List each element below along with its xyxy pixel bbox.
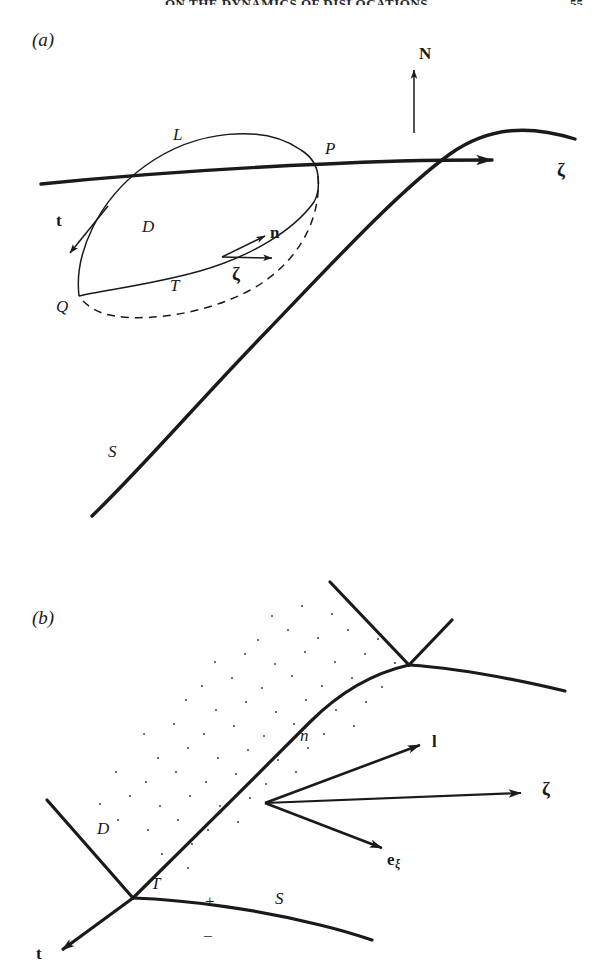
normal-vector-n-arrow-b bbox=[265, 745, 420, 803]
surface-S-curve bbox=[92, 130, 575, 516]
zeta-vector-label-b: ζ bbox=[542, 779, 550, 798]
panel-a-artwork bbox=[41, 70, 575, 516]
e-xi-vector-label: eξ bbox=[387, 851, 400, 871]
e-xi-subscript: ξ bbox=[395, 858, 401, 871]
curve-T-label-b: T bbox=[151, 875, 160, 892]
line-l-curve bbox=[133, 665, 409, 898]
line-l-label: n bbox=[300, 727, 309, 744]
region-D-label: D bbox=[142, 218, 154, 235]
zeta-vector-label-a: ζ bbox=[232, 264, 240, 283]
junction-b-branch-right bbox=[409, 665, 565, 691]
plus-sign-label: + bbox=[205, 893, 215, 910]
zeta-vector-arrow-b bbox=[265, 793, 521, 803]
curve-L-label: L bbox=[173, 126, 182, 143]
region-D-left-boundary bbox=[47, 800, 133, 898]
curve-T-label: T bbox=[170, 277, 179, 294]
normal-vector-n-label-b: l bbox=[432, 733, 437, 750]
normal-vector-N-label: N bbox=[419, 45, 431, 62]
e-xi-base: e bbox=[387, 850, 395, 869]
tangent-vector-t-arrow-b bbox=[62, 898, 133, 950]
minus-sign-label: − bbox=[203, 928, 213, 945]
normal-vector-n-label: n bbox=[270, 224, 279, 241]
panel-b-artwork bbox=[47, 582, 565, 950]
tangent-vector-t-label: t bbox=[56, 212, 62, 229]
point-P-label: P bbox=[325, 140, 335, 157]
zeta-axis-label: ζ bbox=[557, 160, 565, 179]
e-xi-vector-arrow bbox=[265, 803, 382, 848]
zeta-axis-arrow bbox=[41, 160, 492, 184]
figure-page: ON THE DYNAMICS OF DISLOCATIONS 55 bbox=[0, 0, 593, 974]
zeta-vector-arrow bbox=[222, 257, 272, 258]
panel-a-label: (a) bbox=[32, 30, 54, 49]
surface-S-label: S bbox=[108, 443, 117, 460]
junction-b-branch-up-right bbox=[409, 620, 452, 665]
stipple-region-D bbox=[79, 603, 405, 877]
figure-artwork bbox=[0, 0, 593, 974]
surface-S-label-b: S bbox=[275, 890, 284, 907]
tangent-vector-t-arrow bbox=[70, 206, 108, 253]
surface-S-curve-b bbox=[133, 898, 372, 940]
junction-b-branch-up-left bbox=[330, 582, 409, 665]
point-Q-label: Q bbox=[56, 298, 68, 315]
panel-b-label: (b) bbox=[32, 608, 54, 627]
tangent-vector-t-label-b: t bbox=[36, 945, 42, 962]
region-D-label-b: D bbox=[97, 820, 109, 837]
normal-vector-n-arrow bbox=[222, 236, 265, 257]
loop-hidden-dashed-arc bbox=[79, 176, 318, 318]
